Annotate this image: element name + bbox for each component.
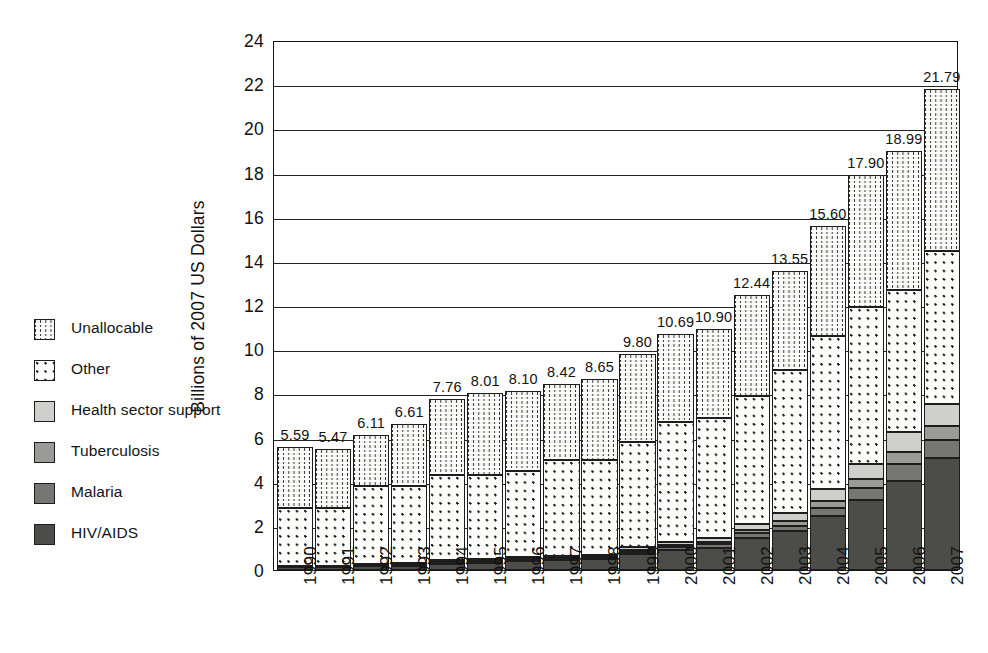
- x-axis-tick-text: 1994: [453, 546, 473, 585]
- bar-segment: [924, 251, 960, 404]
- bar-value-label: 8.10: [509, 371, 538, 387]
- plot-area: 5.595.476.116.617.768.018.108.428.659.80…: [273, 41, 958, 571]
- bar-segment: [924, 426, 960, 439]
- y-axis-tick: 10: [244, 340, 264, 361]
- bar-2006[interactable]: [886, 151, 922, 570]
- bar-2003[interactable]: [772, 271, 808, 570]
- y-axis-tick-labels: 242220181614121086420: [228, 41, 264, 571]
- x-axis-tick-text: 1995: [491, 546, 511, 585]
- x-axis-tick-text: 2006: [910, 546, 930, 585]
- y-axis-title-text: Billions of 2007 US Dollars: [188, 200, 209, 413]
- bar-1999[interactable]: [619, 354, 655, 570]
- bar-segment: [734, 295, 770, 395]
- bar-value-label: 17.90: [847, 155, 884, 171]
- bar-segment: [505, 471, 541, 557]
- bar-2004[interactable]: [810, 226, 846, 571]
- bar-segment: [619, 442, 655, 548]
- legend-swatch-icon: [34, 360, 55, 381]
- bar-segment: [696, 542, 732, 545]
- bar-segment: [924, 89, 960, 251]
- bar-segment: [543, 460, 579, 556]
- x-axis-tick-text: 1999: [644, 546, 664, 585]
- bar-value-label: 7.76: [433, 379, 462, 395]
- x-axis-tick-text: 2004: [834, 546, 854, 585]
- x-axis-tick-text: 2005: [872, 546, 892, 585]
- bar-segment: [886, 452, 922, 464]
- y-axis-tick: 12: [244, 296, 264, 317]
- bar-value-label: 5.59: [281, 427, 310, 443]
- bar-2005[interactable]: [848, 175, 884, 570]
- bar-segment: [848, 175, 884, 308]
- bar-segment: [772, 271, 808, 370]
- stacked-bar-chart: UnallocableOtherHealth sector supportTub…: [0, 0, 988, 653]
- x-axis-tick-text: 2001: [720, 546, 740, 585]
- bar-segment: [810, 336, 846, 489]
- bar-segment: [886, 290, 922, 432]
- bar-segment: [467, 393, 503, 475]
- bar-value-label: 5.47: [319, 429, 348, 445]
- bar-segment: [696, 329, 732, 417]
- bar-segment: [772, 513, 808, 521]
- bar-segment: [734, 533, 770, 538]
- bar-segment: [543, 384, 579, 460]
- x-axis-tick-text: 1990: [301, 546, 321, 585]
- bar-segment: [581, 379, 617, 460]
- bar-2007[interactable]: [924, 89, 960, 570]
- bar-segment: [696, 418, 732, 538]
- legend-item-label: Unallocable: [71, 318, 153, 337]
- bar-segment: [810, 508, 846, 516]
- bar-segment: [734, 524, 770, 530]
- y-axis-tick: 16: [244, 207, 264, 228]
- bar-2002[interactable]: [734, 295, 770, 570]
- y-axis-tick: 0: [254, 561, 264, 582]
- x-axis-tick-text: 1992: [377, 546, 397, 585]
- bar-segment: [657, 334, 693, 422]
- bar-segment: [810, 489, 846, 500]
- bar-value-label: 8.01: [471, 373, 500, 389]
- bar-segment: [810, 501, 846, 508]
- bar-1996[interactable]: [505, 391, 541, 570]
- x-axis-tick-text: 2007: [948, 546, 968, 585]
- bar-segment: [657, 422, 693, 541]
- bar-segment: [772, 526, 808, 532]
- legend-item-label: Malaria: [71, 482, 123, 501]
- bar-1997[interactable]: [543, 384, 579, 570]
- legend-swatch-icon: [34, 483, 55, 504]
- bar-value-label: 12.44: [733, 275, 770, 291]
- bar-segment: [657, 542, 693, 545]
- bar-1994[interactable]: [429, 399, 465, 570]
- bar-value-label: 13.55: [771, 251, 808, 267]
- bar-1998[interactable]: [581, 379, 617, 570]
- bar-2001[interactable]: [696, 329, 732, 570]
- y-axis-tick: 4: [254, 472, 264, 493]
- bar-1995[interactable]: [467, 393, 503, 570]
- legend-swatch-icon: [34, 319, 55, 340]
- bar-value-label: 8.65: [585, 359, 614, 375]
- x-axis-tick-text: 1993: [415, 546, 435, 585]
- y-axis-tick: 6: [254, 428, 264, 449]
- bar-segment: [391, 424, 427, 486]
- legend-item-label: Other: [71, 359, 110, 378]
- x-axis-tick-labels: 1990199119921993199419951996199719981999…: [273, 581, 958, 651]
- bar-segment: [429, 399, 465, 475]
- bar-segment: [353, 435, 389, 486]
- bar-value-label: 21.79: [923, 69, 960, 85]
- x-axis-tick-text: 1991: [339, 546, 359, 585]
- legend-item-label: HIV/AIDS: [71, 523, 138, 542]
- bar-value-label: 15.60: [809, 206, 846, 222]
- x-axis-tick-text: 1996: [529, 546, 549, 585]
- bar-segment: [772, 521, 808, 525]
- x-axis-tick-text: 2003: [796, 546, 816, 585]
- y-axis-tick: 18: [244, 163, 264, 184]
- bar-segment: [734, 396, 770, 525]
- y-axis-tick: 14: [244, 251, 264, 272]
- bar-segment: [810, 226, 846, 336]
- bar-2000[interactable]: [657, 334, 693, 570]
- y-axis-tick: 8: [254, 384, 264, 405]
- x-axis-tick-text: 2002: [758, 546, 778, 585]
- bar-segment: [848, 488, 884, 500]
- bar-segment: [581, 460, 617, 555]
- bar-series-container: 5.595.476.116.617.768.018.108.428.659.80…: [274, 42, 957, 570]
- legend-swatch-icon: [34, 524, 55, 545]
- y-axis-tick: 24: [244, 31, 264, 52]
